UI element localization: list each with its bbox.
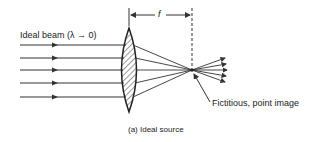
- focal-point: [190, 68, 194, 72]
- image-pointer-arrow: [194, 74, 210, 102]
- incoming-rays: [20, 45, 126, 97]
- converging-rays: [133, 45, 192, 97]
- caption: (a) Ideal source: [128, 125, 184, 134]
- focal-length-label: f: [158, 9, 161, 19]
- ray-direction-arrows: [52, 43, 58, 100]
- image-label: Fictitious, point image: [212, 98, 299, 108]
- beam-label: Ideal beam (λ → 0): [20, 30, 97, 40]
- optics-diagram: [0, 0, 318, 142]
- lens: [122, 28, 137, 112]
- diverging-rays: [192, 58, 227, 82]
